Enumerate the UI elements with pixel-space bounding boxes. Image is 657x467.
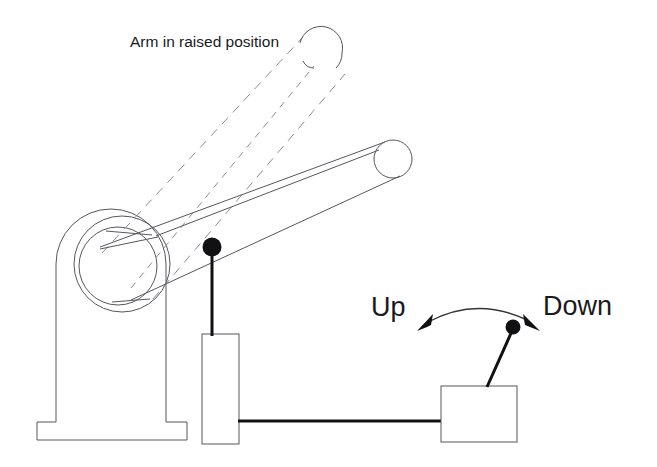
boom-arm-top-edge	[100, 142, 385, 247]
boom-arm-seam	[156, 150, 379, 236]
raised-arm-end-cap	[300, 26, 343, 68]
label-up: Up	[371, 292, 406, 322]
base-pedestal	[37, 209, 187, 440]
boom-arm-bottom-edge	[131, 176, 400, 300]
arrow-head-down	[523, 314, 540, 331]
joystick-knob	[506, 320, 521, 335]
boom-arm-end-cap	[374, 140, 412, 178]
support-post-group	[202, 238, 239, 445]
motion-arc-arrow	[417, 308, 540, 331]
post-ball-knob	[203, 238, 222, 257]
control-box	[441, 386, 517, 442]
raised-arm-seam	[131, 66, 314, 288]
support-post	[202, 334, 239, 444]
caption-arm-raised: Arm in raised position	[130, 33, 279, 50]
base-pedestal-group	[37, 209, 187, 440]
raised-arm-cap-detail	[303, 61, 314, 68]
label-down: Down	[543, 291, 612, 321]
diagram-root: Arm in raised position Up Down	[0, 0, 657, 467]
lift-arm-diagram: Arm in raised position Up Down	[0, 0, 657, 467]
joystick-lever	[487, 331, 512, 387]
joystick-group	[487, 320, 521, 388]
raised-arm-lower-edge	[153, 74, 345, 299]
arrow-head-up	[417, 314, 433, 331]
